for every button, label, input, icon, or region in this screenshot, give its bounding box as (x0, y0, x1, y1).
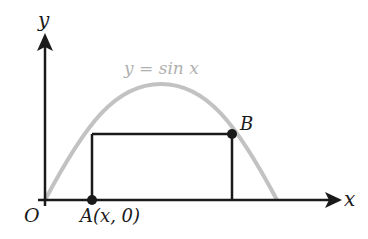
inscribed-rectangle (92, 134, 232, 200)
point-a (87, 195, 97, 205)
origin-label: O (24, 204, 40, 226)
curve-label: y = sin x (123, 58, 199, 78)
sine-curve (45, 84, 277, 200)
point-b-label: B (239, 113, 253, 134)
x-axis-label: x (344, 187, 355, 211)
y-axis-label: y (37, 8, 50, 32)
sine-rectangle-diagram: y x O A(x, 0) B y = sin x (0, 0, 368, 239)
point-a-label: A(x, 0) (78, 205, 140, 226)
point-b (227, 129, 237, 139)
